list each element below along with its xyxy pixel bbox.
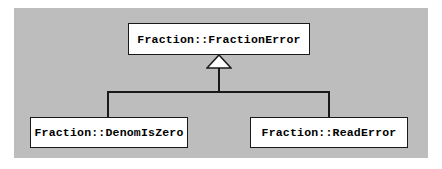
generalization-triangle-icon [206,54,232,69]
diagram-canvas: Fraction::FractionError Fraction::DenomI… [14,8,428,158]
class-box-base[interactable]: Fraction::FractionError [128,23,310,55]
generalization-drop-left [107,91,109,118]
generalization-horizontal-bus [107,91,330,93]
class-box-derived-readerror-label: Fraction::ReadError [262,126,397,139]
class-box-derived-readerror[interactable]: Fraction::ReadError [250,117,408,148]
class-box-base-label: Fraction::FractionError [137,33,300,46]
generalization-drop-right [328,91,330,118]
uml-inheritance-diagram: Fraction::FractionError Fraction::DenomI… [0,0,442,169]
class-box-derived-denomiszero-label: Fraction::DenomIsZero [34,126,183,139]
generalization-stem-line [218,68,220,93]
class-box-derived-denomiszero[interactable]: Fraction::DenomIsZero [30,117,188,148]
